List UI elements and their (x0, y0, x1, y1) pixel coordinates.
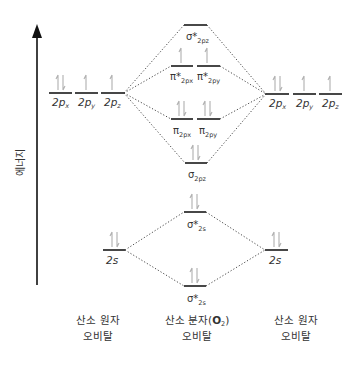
electron-pair-icon (190, 194, 199, 209)
svg-text:2s: 2s (106, 254, 119, 266)
electron-pair-icon (190, 268, 199, 283)
svg-text:오비탈: 오비탈 (83, 330, 113, 342)
electron-pair-icon (177, 101, 186, 116)
electron-up-icon (302, 76, 304, 91)
electron-up-icon (328, 76, 330, 91)
sigma-star-2s-orbital: σ*2s (184, 194, 206, 233)
sigma-star-2pz-orbital: σ*2pz (184, 25, 210, 45)
axis-arrow-icon (32, 24, 42, 38)
svg-text:2px: 2px (269, 97, 286, 111)
electron-up-icon (205, 48, 207, 63)
svg-text:오비탈: 오비탈 (182, 330, 212, 342)
left-2px-orbital: 2px (49, 75, 72, 110)
svg-text:2py: 2py (296, 97, 313, 111)
electron-up-icon (179, 48, 181, 63)
left-2s-orbital: 2s (103, 232, 125, 266)
correlation-lines-2p (124, 25, 266, 163)
svg-text:산소 원자: 산소 원자 (76, 314, 119, 326)
electron-pair-icon (272, 232, 281, 247)
left-2pz-orbital: 2pz (101, 75, 124, 110)
pi-star-2py-orbital: π*2py (197, 48, 220, 85)
electron-up-icon (110, 75, 112, 90)
electron-pair-icon (56, 75, 65, 90)
electron-up-icon (84, 75, 86, 90)
right-2pz-orbital: 2pz (319, 76, 342, 111)
svg-text:π*2px: π*2px (170, 71, 193, 85)
svg-text:π2px: π2px (173, 125, 191, 139)
left-2py-orbital: 2py (75, 75, 98, 110)
right-2py-orbital: 2py (293, 76, 316, 111)
left-caption: 산소 원자 오비탈 (76, 314, 119, 342)
electron-pair-icon (110, 232, 119, 247)
svg-text:2s: 2s (269, 254, 282, 266)
right-2px-orbital: 2px (266, 76, 289, 111)
pi-star-2px-orbital: π*2px (170, 48, 193, 85)
right-2s-orbital: 2s (265, 232, 288, 266)
svg-text:산소 분자(O2): 산소 분자(O2) (165, 314, 230, 328)
electron-pair-icon (273, 76, 282, 91)
electron-pair-icon (191, 145, 200, 160)
svg-text:σ*2s: σ*2s (187, 293, 206, 307)
svg-text:2pz: 2pz (104, 96, 121, 110)
svg-text:σ*2s: σ*2s (187, 219, 206, 233)
svg-text:2py: 2py (78, 96, 95, 110)
svg-text:π2py: π2py (199, 125, 217, 139)
svg-text:σ*2pz: σ*2pz (186, 31, 210, 45)
svg-text:2px: 2px (52, 96, 69, 110)
energy-axis-label: 에너지 (15, 149, 26, 176)
electron-pair-icon (203, 101, 212, 116)
svg-text:산소 원자: 산소 원자 (274, 314, 317, 326)
svg-text:오비탈: 오비탈 (281, 330, 311, 342)
svg-text:2pz: 2pz (322, 97, 339, 111)
svg-text:σ2pz: σ2pz (188, 169, 207, 183)
mo-diagram: 에너지 2px 2py 2pz (0, 0, 360, 365)
pi-2py-orbital: π2py (197, 101, 220, 139)
pi-2px-orbital: π2px (171, 101, 193, 139)
center-caption: 산소 분자(O2) 오비탈 (165, 314, 230, 342)
right-caption: 산소 원자 오비탈 (274, 314, 317, 342)
sigma-2pz-orbital: σ2pz (185, 145, 207, 183)
svg-text:π*2py: π*2py (197, 71, 220, 85)
sigma-2s-orbital: σ*2s (184, 268, 206, 307)
